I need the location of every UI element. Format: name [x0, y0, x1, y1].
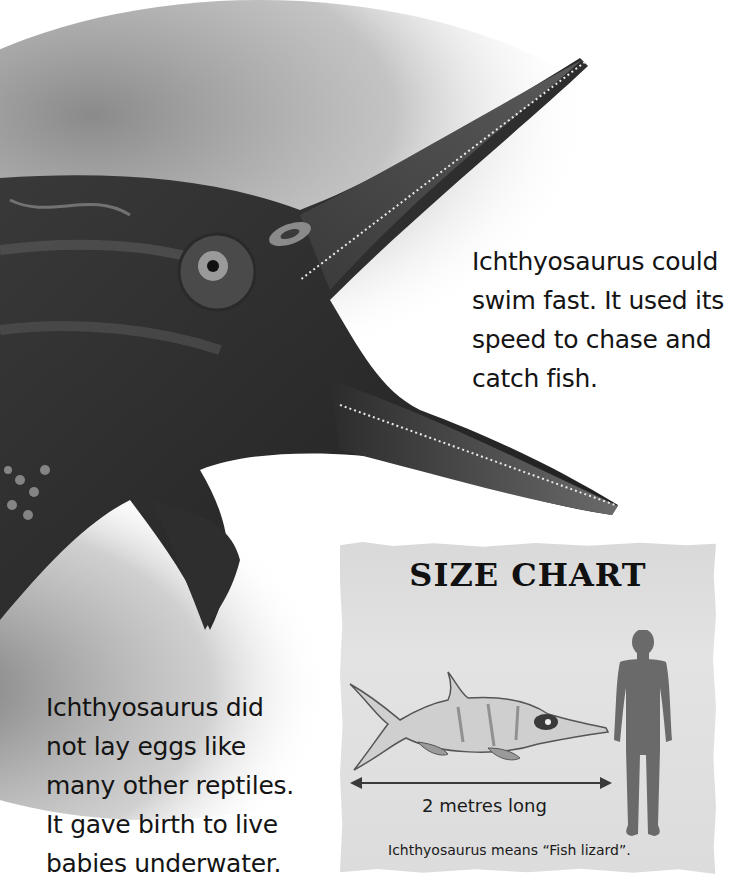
length-label: 2 metres long — [422, 795, 547, 816]
paragraph-line: speed to chase and — [472, 320, 724, 359]
paragraph-line: not lay eggs like — [46, 727, 294, 766]
paragraph-line: babies underwater. — [46, 844, 294, 883]
paragraph-line: catch fish. — [472, 359, 724, 398]
paragraph-line: It gave birth to live — [46, 805, 294, 844]
paragraph-birth: Ichthyosaurus did not lay eggs like many… — [46, 688, 294, 883]
name-meaning-caption: Ichthyosaurus means “Fish lizard”. — [388, 842, 631, 858]
paragraph-line: Ichthyosaurus could — [472, 242, 724, 281]
paragraph-line: Ichthyosaurus did — [46, 688, 294, 727]
size-chart-panel: SIZE CHART 2 metres long Ichthyosaurus m… — [340, 542, 716, 874]
paragraph-line: many other reptiles. — [46, 766, 294, 805]
paragraph-line: swim fast. It used its — [472, 281, 724, 320]
human-silhouette-icon — [610, 630, 676, 840]
size-chart-title: SIZE CHART — [340, 556, 716, 594]
paragraph-swimming: Ichthyosaurus could swim fast. It used i… — [472, 242, 724, 398]
ichthyosaurus-silhouette-icon — [348, 662, 610, 772]
length-arrow — [352, 782, 610, 784]
